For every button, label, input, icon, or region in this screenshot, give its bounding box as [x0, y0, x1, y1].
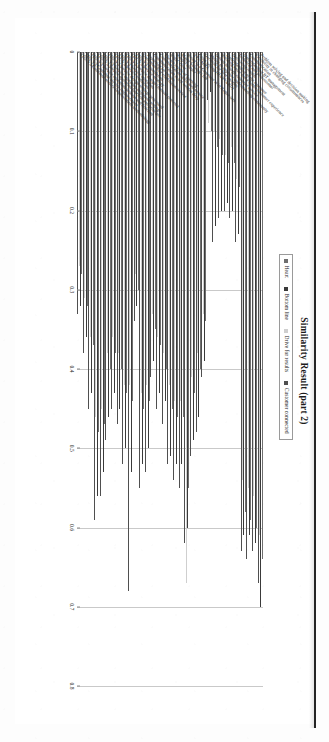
similarity-bar-chart: Similarity Result (part 2) HeartBottom l… — [15, 18, 315, 724]
axis-tick-label: 0.3 — [69, 286, 75, 293]
axis-tick-label: 0.4 — [69, 366, 75, 373]
scanned-page: Similarity Result (part 2) HeartBottom l… — [0, 0, 329, 742]
legend-swatch-icon — [284, 287, 288, 291]
axis-tick-label: 0.1 — [69, 128, 75, 135]
legend-label: Bottom line — [283, 293, 289, 320]
legend-item-bottom-line: Bottom line — [283, 287, 289, 320]
axis-tick-label: 0 — [69, 51, 75, 54]
axis-tick-label: 0.5 — [69, 445, 75, 452]
legend-label: Drive for results — [283, 336, 289, 373]
legend-item-customer-connected: Customer connected — [283, 381, 289, 433]
axis-tick-label: 0.2 — [69, 207, 75, 214]
legend-item-heart: Heart — [283, 259, 289, 278]
rotated-figure-wrapper: Similarity Result (part 2) HeartBottom l… — [15, 18, 315, 724]
legend-swatch-icon — [284, 259, 288, 263]
legend-item-drive-for-results: Drive for results — [283, 329, 289, 372]
axis-tick-label: 0.6 — [69, 524, 75, 531]
chart-legend: HeartBottom lineDrive for resultsCustome… — [279, 254, 293, 440]
page-title: Similarity Result (part 2) — [299, 18, 309, 724]
axis-tick-label: 0.7 — [69, 603, 75, 610]
legend-swatch-icon — [284, 381, 288, 385]
value-axis: 00.10.20.30.40.50.60.70.8 — [61, 52, 77, 686]
axis-tick-label: 0.8 — [69, 683, 75, 690]
page-binding-edge — [314, 12, 316, 728]
gridline — [77, 686, 263, 687]
legend-label: Heart — [283, 266, 289, 278]
legend-swatch-icon — [284, 329, 288, 333]
legend-label: Customer connected — [283, 388, 289, 434]
category-axis-labels: Problem solving and decision makingFlexi… — [77, 52, 263, 686]
